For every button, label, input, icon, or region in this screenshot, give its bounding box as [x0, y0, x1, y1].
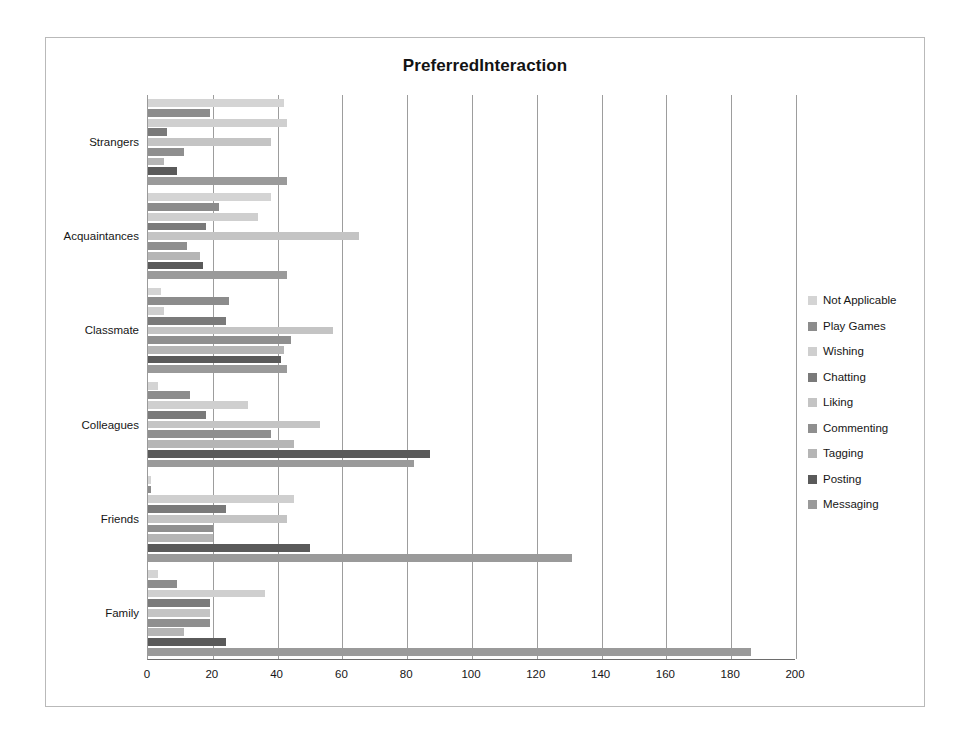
bar-friends-liking[interactable]	[148, 515, 287, 523]
bar-colleagues-tagging[interactable]	[148, 440, 294, 448]
bar-acquaintances-messaging[interactable]	[148, 271, 287, 279]
bar-colleagues-messaging[interactable]	[148, 460, 414, 468]
x-axis-tick-labels: 020406080100120140160180200	[147, 668, 795, 690]
bar-classmate-play-games[interactable]	[148, 297, 229, 305]
x-tick-label: 80	[400, 668, 413, 680]
bar-row	[148, 514, 795, 524]
bar-row	[148, 598, 795, 608]
bar-strangers-liking[interactable]	[148, 138, 271, 146]
bar-classmate-posting[interactable]	[148, 356, 281, 364]
bar-row	[148, 400, 795, 410]
bar-friends-play-games[interactable]	[148, 486, 151, 494]
bar-family-tagging[interactable]	[148, 628, 184, 636]
bar-family-play-games[interactable]	[148, 580, 177, 588]
legend-item-play-games[interactable]: Play Games	[808, 314, 926, 340]
y-axis-label-acquaintances: Acquaintances	[64, 230, 147, 242]
bar-strangers-play-games[interactable]	[148, 109, 210, 117]
bar-colleagues-play-games[interactable]	[148, 391, 190, 399]
legend-label: Chatting	[823, 372, 866, 384]
bar-acquaintances-tagging[interactable]	[148, 252, 200, 260]
bar-row	[148, 569, 795, 579]
legend-item-not-applicable[interactable]: Not Applicable	[808, 288, 926, 314]
bar-row	[148, 355, 795, 365]
gridline	[796, 95, 797, 659]
bar-row	[148, 270, 795, 280]
bar-family-not-applicable[interactable]	[148, 570, 158, 578]
bar-family-posting[interactable]	[148, 638, 226, 646]
bar-row	[148, 439, 795, 449]
bar-family-wishing[interactable]	[148, 590, 265, 598]
bar-classmate-wishing[interactable]	[148, 307, 164, 315]
bar-row	[148, 647, 795, 657]
bar-row	[148, 410, 795, 420]
bar-row	[148, 579, 795, 589]
bar-colleagues-chatting[interactable]	[148, 411, 206, 419]
bar-family-messaging[interactable]	[148, 648, 751, 656]
legend-label: Not Applicable	[823, 295, 897, 307]
bar-row	[148, 231, 795, 241]
bar-strangers-commenting[interactable]	[148, 148, 184, 156]
bar-colleagues-wishing[interactable]	[148, 401, 248, 409]
bar-row	[148, 429, 795, 439]
bar-colleagues-liking[interactable]	[148, 421, 320, 429]
bar-classmate-messaging[interactable]	[148, 365, 287, 373]
x-tick-label: 100	[461, 668, 480, 680]
bar-family-chatting[interactable]	[148, 599, 210, 607]
legend-swatch-icon	[808, 449, 817, 458]
bar-strangers-messaging[interactable]	[148, 177, 287, 185]
bar-classmate-not-applicable[interactable]	[148, 288, 161, 296]
bar-friends-posting[interactable]	[148, 544, 310, 552]
legend-item-posting[interactable]: Posting	[808, 467, 926, 493]
bar-group-acquaintances	[148, 189, 795, 283]
legend-swatch-icon	[808, 475, 817, 484]
bar-acquaintances-liking[interactable]	[148, 232, 359, 240]
bar-strangers-tagging[interactable]	[148, 158, 164, 166]
bar-family-liking[interactable]	[148, 609, 210, 617]
bar-acquaintances-posting[interactable]	[148, 262, 203, 270]
bar-acquaintances-commenting[interactable]	[148, 242, 187, 250]
bar-strangers-chatting[interactable]	[148, 128, 167, 136]
legend-swatch-icon	[808, 347, 817, 356]
bar-friends-not-applicable[interactable]	[148, 476, 151, 484]
bar-row	[148, 391, 795, 401]
bar-row	[148, 381, 795, 391]
bar-classmate-tagging[interactable]	[148, 346, 284, 354]
y-axis-category-labels: StrangersAcquaintancesClassmateColleague…	[46, 95, 147, 660]
bar-group-friends	[148, 472, 795, 566]
legend-item-liking[interactable]: Liking	[808, 390, 926, 416]
legend-item-commenting[interactable]: Commenting	[808, 416, 926, 442]
bar-friends-commenting[interactable]	[148, 525, 213, 533]
legend-item-tagging[interactable]: Tagging	[808, 441, 926, 467]
bar-classmate-chatting[interactable]	[148, 317, 226, 325]
legend-item-wishing[interactable]: Wishing	[808, 339, 926, 365]
bar-classmate-liking[interactable]	[148, 327, 333, 335]
bar-friends-messaging[interactable]	[148, 554, 572, 562]
bar-friends-wishing[interactable]	[148, 495, 294, 503]
bar-row	[148, 241, 795, 251]
bar-row	[148, 261, 795, 271]
bar-strangers-posting[interactable]	[148, 167, 177, 175]
bar-row	[148, 628, 795, 638]
bar-row	[148, 449, 795, 459]
legend-item-chatting[interactable]: Chatting	[808, 365, 926, 391]
bar-strangers-wishing[interactable]	[148, 119, 287, 127]
bar-acquaintances-wishing[interactable]	[148, 213, 258, 221]
bar-row	[148, 475, 795, 485]
bar-acquaintances-chatting[interactable]	[148, 223, 206, 231]
bar-acquaintances-not-applicable[interactable]	[148, 193, 271, 201]
bar-friends-tagging[interactable]	[148, 534, 213, 542]
x-tick-label: 140	[591, 668, 610, 680]
bar-colleagues-commenting[interactable]	[148, 430, 271, 438]
bar-group-strangers	[148, 95, 795, 189]
bar-row	[148, 504, 795, 514]
bar-acquaintances-play-games[interactable]	[148, 203, 219, 211]
bar-strangers-not-applicable[interactable]	[148, 99, 284, 107]
bar-family-commenting[interactable]	[148, 619, 210, 627]
legend-item-messaging[interactable]: Messaging	[808, 492, 926, 518]
chart-legend: Not ApplicablePlay GamesWishingChattingL…	[808, 288, 926, 518]
legend-label: Liking	[823, 397, 853, 409]
bar-colleagues-not-applicable[interactable]	[148, 382, 158, 390]
bar-classmate-commenting[interactable]	[148, 336, 291, 344]
bar-friends-chatting[interactable]	[148, 505, 226, 513]
bar-colleagues-posting[interactable]	[148, 450, 430, 458]
